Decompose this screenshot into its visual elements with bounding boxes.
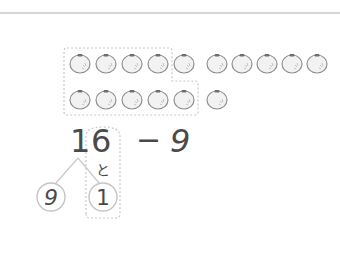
- tomato-icon: [148, 90, 168, 109]
- minuend-ones: 6: [91, 122, 111, 160]
- split-right: 1: [89, 183, 117, 211]
- tomato-icon: [96, 90, 116, 109]
- tomato-icon: [232, 54, 252, 73]
- split-left: 9: [37, 183, 65, 211]
- tomato-icon: [174, 90, 194, 109]
- tomato-icon: [207, 54, 227, 73]
- subtrahend: 9: [170, 122, 190, 160]
- tomato-icon: [307, 54, 327, 73]
- tomato-icon: [257, 54, 277, 73]
- subtraction-diagram: 1 6 − 9 と 9 1: [0, 0, 340, 263]
- tomato-icon: [70, 54, 90, 73]
- decomposition-branches: [56, 158, 99, 183]
- tomato-icon: [122, 54, 142, 73]
- tomato-row-2: [70, 90, 227, 109]
- minuend-tens: 1: [70, 122, 90, 160]
- split-right-value: 1: [96, 185, 110, 210]
- split-left-value: 9: [44, 185, 58, 210]
- operator: −: [136, 122, 161, 157]
- tomato-icon: [96, 54, 116, 73]
- tomato-icon: [282, 54, 302, 73]
- tomato-row-1: [70, 54, 327, 73]
- tomato-icon: [207, 90, 227, 109]
- tomato-icon: [174, 54, 194, 73]
- tomato-icon: [70, 90, 90, 109]
- tomato-icon: [148, 54, 168, 73]
- tomato-icon: [122, 90, 142, 109]
- connector-to: と: [96, 162, 110, 178]
